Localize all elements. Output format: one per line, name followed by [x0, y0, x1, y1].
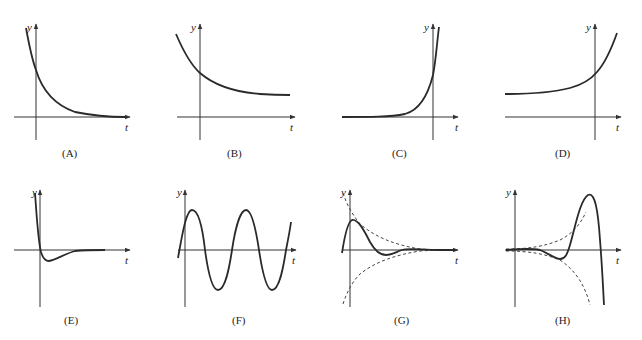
curve	[26, 28, 125, 117]
figure-canvas: y t (A) y t (B) y t (C) y t (D) y t (E)	[0, 0, 642, 340]
panel-caption: (D)	[555, 147, 571, 160]
t-axis-label: t	[616, 254, 620, 266]
panel-a: y t (A)	[14, 21, 130, 160]
panel-d: y t (D)	[505, 21, 621, 160]
t-axis-label: t	[290, 121, 294, 133]
y-axis-label: y	[176, 186, 182, 198]
t-axis-label: t	[455, 254, 459, 266]
t-axis-label: t	[455, 121, 459, 133]
t-axis-label: t	[125, 254, 129, 266]
y-axis-label: y	[340, 186, 346, 198]
curve	[176, 34, 290, 95]
y-axis-label: y	[423, 21, 429, 33]
panel-caption: (F)	[232, 314, 246, 327]
lower-envelope	[506, 251, 590, 305]
upper-envelope	[343, 193, 455, 250]
panel-c: y t (C)	[342, 21, 459, 160]
panel-b: y t (B)	[176, 21, 295, 160]
panel-caption: (C)	[392, 147, 407, 160]
t-axis-label: t	[616, 121, 620, 133]
lower-envelope	[343, 250, 455, 304]
panel-caption: (H)	[555, 314, 571, 327]
y-axis-label: y	[505, 186, 511, 198]
panel-caption: (G)	[394, 314, 410, 327]
panel-f: y t (F)	[176, 186, 296, 327]
y-axis-label: y	[585, 21, 591, 33]
t-axis-label: t	[292, 254, 296, 266]
panel-e: y t (E)	[14, 186, 130, 327]
panel-caption: (E)	[64, 314, 78, 327]
curve	[505, 33, 617, 94]
curve	[342, 27, 439, 117]
panel-h: y t (H)	[505, 186, 621, 327]
t-axis-label: t	[125, 121, 129, 133]
curve	[35, 193, 105, 261]
panel-caption: (B)	[227, 147, 242, 160]
panel-g: y t (G)	[340, 186, 459, 327]
y-axis-label: y	[190, 21, 196, 33]
panel-caption: (A)	[62, 147, 78, 160]
